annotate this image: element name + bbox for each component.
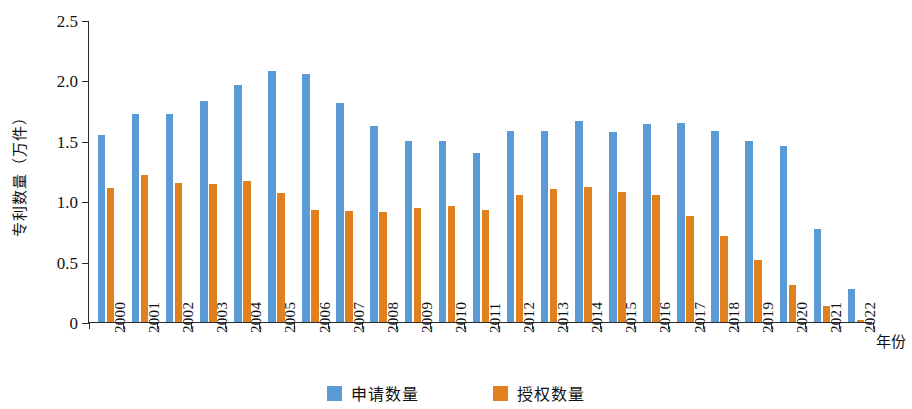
bar-申请数量-2009 [405,141,413,322]
bar-授权数量-2012 [516,195,524,322]
bar-授权数量-2004 [243,181,251,322]
bar-申请数量-2022 [848,289,856,322]
bar-授权数量-2015 [618,192,626,322]
chart-legend: 申请数量授权数量 [0,381,912,405]
plot-area: 00.51.01.52.02.5 20002001200220032004200… [88,21,872,323]
legend-swatch-icon [327,386,342,401]
bar-申请数量-2019 [745,141,753,322]
bar-申请数量-2016 [643,124,651,322]
bar-申请数量-2006 [302,74,310,322]
bar-授权数量-2017 [686,216,694,322]
bar-授权数量-2019 [754,260,762,322]
bar-申请数量-2021 [814,229,822,322]
legend-swatch-icon [493,386,508,401]
bar-授权数量-2010 [448,206,456,322]
bar-授权数量-2021 [823,306,831,322]
bar-授权数量-2011 [482,210,490,322]
x-tick-label: 2005 [283,302,298,333]
legend-item[interactable]: 授权数量 [493,381,585,405]
x-tick-label: 2011 [488,302,503,333]
y-axis-title: 专利数量（万件） [8,73,29,273]
x-tick-label: 2004 [249,302,264,333]
x-tick-label: 2019 [761,302,776,333]
y-tick-label: 1.5 [57,133,78,150]
bar-授权数量-2007 [345,211,353,322]
x-tick-label: 2018 [727,302,742,333]
x-tick-label: 2006 [318,302,333,333]
bar-申请数量-2003 [200,101,208,322]
y-tick-mark [82,21,89,22]
bar-授权数量-2008 [379,212,387,322]
bar-授权数量-2014 [584,187,592,322]
x-tick-label: 2008 [386,302,401,333]
bar-申请数量-2007 [336,103,344,322]
x-tick-label: 2003 [215,302,230,333]
x-tick-label: 2021 [829,302,844,333]
bar-申请数量-2013 [541,131,549,322]
bar-申请数量-2008 [370,126,378,322]
x-tick-label: 2012 [522,302,537,333]
bar-授权数量-2006 [311,210,319,322]
x-tick-label: 2001 [147,302,162,333]
x-tick-label: 2015 [624,302,639,333]
bar-申请数量-2015 [609,132,617,322]
x-tick-label: 2017 [693,302,708,333]
x-tick-label: 2016 [658,302,673,333]
y-tick-label: 0 [70,315,79,332]
bar-授权数量-2005 [277,193,285,322]
y-tick-label: 2.0 [57,73,78,90]
bar-授权数量-2018 [720,236,728,322]
y-tick-label: 1.0 [57,194,78,211]
bar-授权数量-2013 [550,189,558,322]
x-tick-label: 2009 [420,302,435,333]
x-tick-label: 2002 [181,302,196,333]
x-tick-label: 2000 [113,302,128,333]
bar-授权数量-2016 [652,195,660,322]
bar-申请数量-2010 [439,141,447,322]
legend-label: 授权数量 [517,381,585,405]
bar-申请数量-2001 [132,114,140,322]
y-tick-mark [82,202,89,203]
x-tick-mark [89,322,90,329]
y-tick-mark [82,81,89,82]
legend-item[interactable]: 申请数量 [327,381,419,405]
y-tick-label: 0.5 [57,254,78,271]
bar-授权数量-2001 [141,175,149,322]
bar-授权数量-2003 [209,184,217,322]
bar-申请数量-2012 [507,131,515,322]
bar-申请数量-2005 [268,71,276,322]
bar-授权数量-2020 [789,285,797,322]
bar-申请数量-2011 [473,153,481,322]
bar-授权数量-2002 [175,183,183,322]
x-tick-label: 2022 [863,302,878,333]
legend-label: 申请数量 [351,381,419,405]
y-tick-mark [82,263,89,264]
bar-申请数量-2002 [166,114,174,322]
bar-申请数量-2000 [98,135,106,322]
x-tick-label: 2007 [352,302,367,333]
x-tick-label: 2010 [454,302,469,333]
bar-授权数量-2009 [414,208,422,322]
y-tick-mark [82,142,89,143]
bar-申请数量-2014 [575,121,583,322]
x-tick-label: 2014 [590,302,605,333]
bar-chart: 专利数量（万件） 00.51.01.52.02.5 20002001200220… [0,0,912,409]
x-tick-label: 2013 [556,302,571,333]
bar-申请数量-2017 [677,123,685,322]
x-axis-title: 年份 [876,330,906,351]
bar-申请数量-2004 [234,85,242,322]
bar-授权数量-2022 [857,320,865,322]
x-tick-label: 2020 [795,302,810,333]
bar-申请数量-2020 [780,146,788,322]
y-tick-mark [82,323,89,324]
bar-申请数量-2018 [711,131,719,322]
bar-授权数量-2000 [107,188,115,322]
y-tick-label: 2.5 [57,13,78,30]
